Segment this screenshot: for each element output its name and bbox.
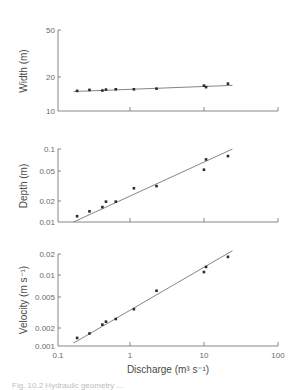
x-tick-1: 1 [128,351,133,360]
depth-data-points [74,149,233,222]
data-point [105,88,108,91]
figure-caption: Fig. 10.2 Hydraulic geometry ... [12,381,123,390]
width-tick-50: 50 [46,26,55,35]
data-point [133,187,136,190]
x-axis-label: Discharge (m³ s⁻¹) [127,364,209,375]
data-point [101,323,104,326]
data-point [203,271,206,274]
fit-line [74,85,233,91]
width-data-points [74,82,233,92]
width-panel: 50 20 10 Width (m) [18,26,278,116]
data-point [76,90,79,93]
data-point [101,206,104,209]
data-point [133,88,136,91]
depth-ylabel: Depth (m) [18,164,29,208]
velocity-axes [58,254,278,346]
width-axes [58,30,278,111]
fit-line [74,149,233,222]
data-point [88,332,91,335]
data-point [227,256,230,259]
depth-tick-0.01: 0.01 [39,218,55,227]
data-point [76,215,79,218]
x-tick-0.1: 0.1 [52,351,64,360]
data-point [88,89,91,92]
width-ylabel: Width (m) [18,49,29,92]
data-point [205,158,208,161]
depth-panel: 0.1 0.05 0.02 0.01 Depth (m) [18,145,278,227]
velocity-panel: 0.02 0.01 0.005 0.002 0.001 Velocity (m … [18,250,285,375]
data-point [76,337,79,340]
width-tick-20: 20 [46,73,55,82]
velocity-tick-0.002: 0.002 [35,324,56,333]
data-point [133,308,136,311]
velocity-tick-0.001: 0.001 [35,342,56,351]
x-tick-10: 10 [200,351,209,360]
fit-line [74,251,233,343]
velocity-data-points [74,251,233,343]
data-point [114,318,117,321]
velocity-tick-0.02: 0.02 [39,250,55,259]
data-point [114,88,117,91]
data-point [155,87,158,90]
data-point [101,89,104,92]
data-point [155,185,158,188]
data-point [155,289,158,292]
depth-tick-0.05: 0.05 [39,167,55,176]
data-point [105,320,108,323]
data-point [105,200,108,203]
hydraulic-geometry-chart: 50 20 10 Width (m) 0.1 0.05 0.02 0.01 De… [0,0,299,390]
data-point [205,86,208,89]
depth-axes [58,149,278,222]
x-tick-100: 100 [271,351,285,360]
data-point [227,155,230,158]
width-tick-10: 10 [46,107,55,116]
depth-tick-0.1: 0.1 [44,145,56,154]
velocity-tick-0.005: 0.005 [35,293,56,302]
data-point [227,82,230,85]
depth-tick-0.02: 0.02 [39,197,55,206]
data-point [205,266,208,269]
velocity-ylabel: Velocity (m s⁻¹) [18,266,29,334]
data-point [203,168,206,171]
velocity-tick-0.01: 0.01 [39,271,55,280]
data-point [114,200,117,203]
data-point [88,210,91,213]
